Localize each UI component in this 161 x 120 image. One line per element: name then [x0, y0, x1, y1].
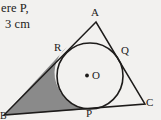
- center-point-dot: [85, 74, 89, 78]
- tangent-label-p: P: [86, 108, 92, 119]
- incircle: [57, 43, 123, 109]
- tangent-label-r: R: [54, 42, 61, 53]
- tangent-label-q: Q: [121, 45, 129, 56]
- vertex-label-c: C: [146, 97, 153, 108]
- prose-text-line-2: 3 cm: [5, 18, 30, 31]
- prose-text-line-1: ere P,: [1, 2, 29, 15]
- center-label-o: O: [92, 70, 100, 81]
- vertex-label-b: B: [0, 111, 7, 120]
- vertex-label-a: A: [91, 7, 99, 18]
- geometry-figure: ere P, 3 cm A R Q O P C B: [0, 0, 161, 120]
- shaded-region: [4, 47, 91, 115]
